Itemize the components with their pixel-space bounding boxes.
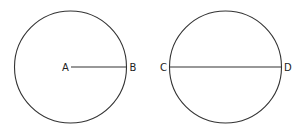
circle-diagram: A B C D [0, 0, 306, 131]
label-d: D [284, 62, 292, 73]
label-a: A [62, 62, 69, 73]
label-b: B [130, 62, 137, 73]
left-circle-group: A B [15, 11, 137, 123]
label-c: C [160, 62, 167, 73]
right-circle-group: C D [160, 11, 292, 123]
